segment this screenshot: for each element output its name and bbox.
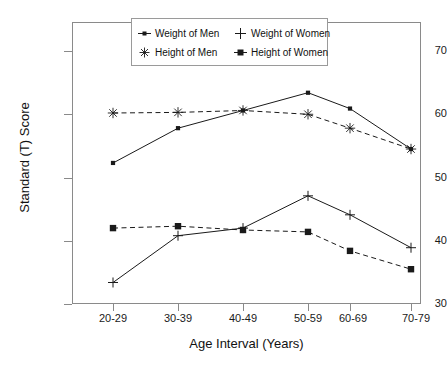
legend-item-weight-of-women: Weight of Women — [234, 27, 335, 40]
legend-label: Height of Women — [251, 48, 328, 58]
chart-legend: Weight of Men Weight of Women — [131, 18, 328, 66]
legend-label: Weight of Men — [155, 29, 219, 39]
legend-item-height-of-women: Height of Women — [234, 46, 335, 59]
series-height-of-women — [110, 223, 414, 272]
filled-square-small-marker-icon — [138, 27, 151, 40]
chart-figure: 70 60 50 40 30 20-29 30-39 40-49 50-59 6… — [0, 0, 447, 367]
series-weight-of-men — [111, 91, 413, 165]
filled-square-marker-icon — [234, 46, 247, 59]
asterisk-marker-icon — [138, 46, 151, 59]
plus-marker-icon — [234, 27, 247, 40]
legend-label: Weight of Women — [251, 29, 330, 39]
legend-label: Height of Men — [155, 48, 217, 58]
legend-item-height-of-men: Height of Men — [138, 46, 234, 59]
series-weight-of-women — [108, 191, 416, 288]
legend-item-weight-of-men: Weight of Men — [138, 27, 234, 40]
series-height-of-men — [108, 105, 416, 154]
